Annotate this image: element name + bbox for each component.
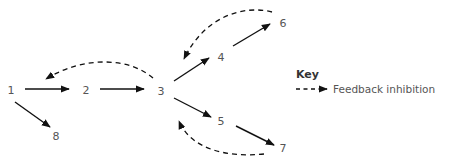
node-1: 1 xyxy=(8,84,15,97)
node-6: 6 xyxy=(280,17,287,30)
arrow-1-to-8 xyxy=(15,102,50,127)
node-5: 5 xyxy=(218,115,225,128)
node-2: 2 xyxy=(83,84,90,97)
feedback-arrow-6-to-4 xyxy=(184,10,272,59)
arrow-4-to-6 xyxy=(233,24,270,46)
arrow-5-to-7 xyxy=(236,126,274,145)
key-label-feedback-inhibition: Feedback inhibition xyxy=(333,83,435,95)
node-7: 7 xyxy=(280,142,287,155)
feedback-arrow-3-to-1 xyxy=(46,62,153,79)
node-8: 8 xyxy=(53,130,60,143)
arrow-3-to-4 xyxy=(174,58,209,81)
arrow-3-to-5 xyxy=(174,98,211,117)
key-title: Key xyxy=(296,68,319,81)
node-4: 4 xyxy=(218,51,225,64)
node-3: 3 xyxy=(158,85,165,98)
